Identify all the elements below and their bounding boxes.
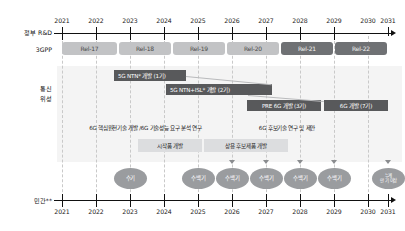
project-bar-5g-ntn[interactable]: 5G NTN* 개발 (1기) [114, 70, 186, 81]
project-bar-label: 5G NTN+ISL* 개발 (2기) [170, 86, 230, 94]
private-oval-label: 수백기 [293, 176, 307, 182]
bottom-year-2024: 2024 [151, 208, 177, 215]
bottom-tick-2027 [266, 194, 267, 207]
product-bar-commercial-candidate[interactable]: 상용 후보제품 개발 [204, 139, 288, 152]
bottom-tick-2022 [96, 194, 97, 207]
bottom-year-2022: 2022 [83, 208, 109, 215]
bottom-year-2027: 2027 [253, 208, 279, 215]
bottom-tick-2031 [388, 194, 389, 207]
private-oval-2023[interactable]: 수기 [114, 168, 147, 189]
project-bar-label: PRE 6G 개발 (3기) [262, 102, 306, 110]
release-label: Rel-17 [81, 45, 99, 52]
top-tick-2026 [232, 27, 233, 40]
bottom-tick-2030 [368, 194, 369, 207]
release-pill-rel-18[interactable]: Rel-18 [119, 42, 171, 55]
release-pill-rel-20[interactable]: Rel-20 [227, 42, 279, 55]
private-arrow-2029 [331, 160, 337, 164]
release-label: Rel-20 [244, 45, 262, 52]
top-tick-2028 [300, 27, 301, 40]
bottom-axis-arrow [391, 197, 396, 203]
private-oval-2031[interactable]: 누계 만 기 이상 [372, 168, 405, 189]
top-tick-2022 [96, 27, 97, 40]
top-year-2023: 2023 [117, 17, 143, 24]
top-tick-2031 [388, 27, 389, 36]
project-bar-6g[interactable]: 6G 개발 (7기) [324, 100, 388, 111]
product-bar-label: 시작품 개발 [157, 142, 183, 150]
bottom-year-2025: 2025 [185, 208, 211, 215]
private-oval-2028[interactable]: 수백기 [284, 168, 317, 189]
release-pill-rel-22[interactable]: Rel-22 [335, 42, 387, 55]
project-bar-5g-ntn-isl[interactable]: 5G NTN+ISL* 개발 (2기) [166, 84, 272, 95]
research-bar-label: 6G 핵심원천기술 개발 /6G 기술성능 요구 분석 연구 [89, 124, 202, 132]
guide-2030 [368, 36, 369, 207]
private-arrow-2027 [263, 160, 269, 164]
research-bar-core-tech[interactable]: 6G 핵심원천기술 개발 /6G 기술성능 요구 분석 연구 [57, 122, 234, 134]
row-label-satellite-line2: 위성 [14, 95, 52, 103]
top-tick-2025 [198, 27, 199, 40]
project-bar-pre-6g[interactable]: PRE 6G 개발 (3기) [247, 100, 321, 111]
bottom-tick-2026 [232, 194, 233, 207]
bottom-year-2029: 2029 [321, 208, 347, 215]
private-oval-2026[interactable]: 수백기 [216, 168, 249, 189]
bottom-year-2023: 2023 [117, 208, 143, 215]
top-year-2022: 2022 [83, 17, 109, 24]
release-pill-rel-21[interactable]: Rel-21 [281, 42, 333, 55]
bottom-tick-2023 [130, 194, 131, 207]
private-oval-label: 수백기 [191, 176, 205, 182]
top-tick-2027 [266, 27, 267, 40]
bottom-tick-2024 [164, 194, 165, 207]
bottom-tick-2025 [198, 194, 199, 207]
top-year-2025: 2025 [185, 17, 211, 24]
row-label-satellite-line1: 통신 [14, 85, 52, 93]
axis-label-private: 민간** [6, 196, 52, 205]
bottom-year-2028: 2028 [287, 208, 313, 215]
research-bar-candidate-tech[interactable]: 6G 후보기술 연구 및 제안 [232, 122, 342, 134]
top-year-2031: 2031 [375, 17, 401, 24]
research-bar-label: 6G 후보기술 연구 및 제안 [259, 124, 315, 132]
private-arrow-2031 [385, 160, 391, 164]
top-year-2029: 2029 [321, 17, 347, 24]
top-axis-arrow [391, 30, 396, 36]
release-label: Rel-21 [298, 45, 316, 52]
top-year-2026: 2026 [219, 17, 245, 24]
bottom-tick-2028 [300, 194, 301, 207]
release-pill-rel-19[interactable]: Rel-19 [173, 42, 225, 55]
axis-label-government-rd: 정부 R&D [6, 28, 52, 37]
private-arrow-2026 [229, 160, 235, 164]
bottom-year-2021: 2021 [49, 208, 75, 215]
release-label: Rel-19 [190, 45, 208, 52]
private-oval-label: 수백기 [259, 176, 273, 182]
private-oval-2025[interactable]: 수백기 [182, 168, 215, 189]
private-oval-label-line2: 만 기 이상 [380, 179, 398, 184]
release-pill-rel-17[interactable]: Rel-17 [62, 42, 117, 55]
product-bar-label: 상용 후보제품 개발 [225, 142, 267, 150]
project-bar-label: 5G NTN* 개발 (1기) [118, 72, 166, 80]
bottom-tick-2029 [334, 194, 335, 207]
row-label-3gpp: 3GPP [14, 46, 52, 53]
top-axis-line [54, 33, 392, 34]
private-oval-label: 수백기 [327, 176, 341, 182]
project-bar-label: 6G 개발 (7기) [340, 102, 372, 110]
top-tick-2029 [334, 27, 335, 40]
bottom-year-2031: 2031 [375, 208, 401, 215]
top-year-2028: 2028 [287, 17, 313, 24]
bottom-axis-line [54, 200, 392, 201]
bottom-tick-2021 [62, 194, 63, 207]
bottom-year-2026: 2026 [219, 208, 245, 215]
top-tick-2021 [62, 27, 63, 40]
private-oval-2027[interactable]: 수백기 [250, 168, 283, 189]
private-arrow-2028 [297, 160, 303, 164]
private-oval-label: 수백기 [225, 176, 239, 182]
top-year-2021: 2021 [49, 17, 75, 24]
private-oval-2029[interactable]: 수백기 [318, 168, 351, 189]
top-year-2027: 2027 [253, 17, 279, 24]
product-bar-prototype[interactable]: 시작품 개발 [138, 139, 202, 152]
private-oval-label: 수기 [126, 176, 136, 182]
release-label: Rel-22 [352, 45, 370, 52]
top-tick-2023 [130, 27, 131, 40]
top-tick-2024 [164, 27, 165, 40]
release-label: Rel-18 [136, 45, 154, 52]
top-year-2024: 2024 [151, 17, 177, 24]
